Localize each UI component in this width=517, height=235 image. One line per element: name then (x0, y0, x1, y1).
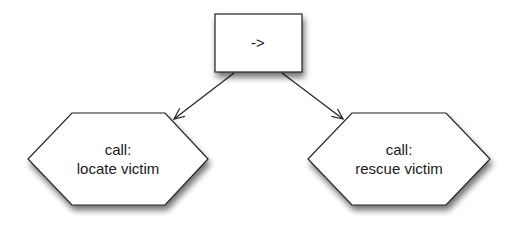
sequence-node[interactable]: -> (215, 14, 302, 72)
rescue-victim-line1: call: (386, 141, 413, 158)
behavior-tree-diagram: -> call: locate victim call: rescue vict… (0, 0, 517, 235)
rescue-victim-line2: rescue victim (355, 160, 443, 177)
sequence-node-label: -> (251, 34, 265, 51)
action-node-rescue-victim[interactable]: call: rescue victim (308, 113, 490, 205)
edge-to-locate-victim (174, 73, 234, 119)
edge-to-rescue-victim (282, 73, 343, 119)
locate-victim-line1: call: (105, 141, 132, 158)
action-node-locate-victim[interactable]: call: locate victim (28, 113, 208, 205)
locate-victim-line2: locate victim (77, 160, 160, 177)
